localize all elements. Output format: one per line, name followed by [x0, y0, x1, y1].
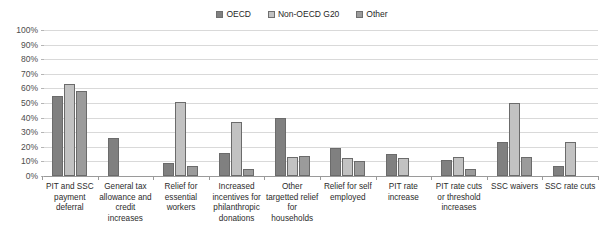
bar[interactable]	[287, 157, 298, 176]
x-axis-category-tick	[264, 176, 265, 180]
bar[interactable]	[465, 169, 476, 176]
x-axis-category-label: PIT rate cuts or threshold increases	[431, 182, 487, 224]
y-axis-tick-mark	[41, 30, 44, 31]
legend-swatch-icon	[356, 11, 363, 18]
y-axis-tick-mark	[41, 74, 44, 75]
x-axis-category-label: Other targetted relief for households	[264, 182, 320, 224]
legend-swatch-icon	[268, 11, 275, 18]
y-axis-tick-label: 20%	[0, 143, 38, 152]
legend-label: Non-OECD G20	[278, 10, 339, 19]
y-axis-tick-label: 80%	[0, 55, 38, 64]
y-axis-tick-mark	[41, 147, 44, 148]
bar-group	[264, 30, 320, 176]
x-axis-category-label: General tax allowance and credit increas…	[98, 182, 154, 224]
y-axis-tick-label: 40%	[0, 113, 38, 122]
legend-item-non-oecd-g20[interactable]: Non-OECD G20	[268, 10, 339, 19]
x-axis-category-tick	[209, 176, 210, 180]
bar[interactable]	[342, 158, 353, 176]
bar-group	[376, 30, 432, 176]
y-axis: 100%90%80%70%60%50%40%30%20%10%0%	[0, 30, 38, 176]
legend-swatch-icon	[216, 11, 223, 18]
bar[interactable]	[497, 142, 508, 176]
bar-group	[98, 30, 154, 176]
bar[interactable]	[231, 122, 242, 176]
bar-group	[209, 30, 265, 176]
y-axis-tick-label: 10%	[0, 157, 38, 166]
legend-item-oecd[interactable]: OECD	[216, 10, 251, 19]
x-axis-category-label: Relief for self employed	[320, 182, 376, 224]
bar[interactable]	[330, 148, 341, 176]
y-axis-tick-label: 90%	[0, 40, 38, 49]
y-axis-tick-label: 0%	[0, 172, 38, 181]
x-axis-category-label: Increased incentives for philanthropic d…	[209, 182, 265, 224]
chart-legend: OECDNon-OECD G20Other	[0, 10, 604, 19]
y-axis-tick-mark	[41, 161, 44, 162]
x-axis-category-tick	[376, 176, 377, 180]
y-axis-tick-mark	[41, 118, 44, 119]
legend-label: Other	[366, 10, 387, 19]
y-axis-tick-label: 50%	[0, 99, 38, 108]
bar[interactable]	[108, 138, 119, 176]
bar[interactable]	[441, 160, 452, 176]
bar[interactable]	[386, 154, 397, 176]
y-axis-tick-mark	[41, 88, 44, 89]
y-axis-tick-label: 30%	[0, 128, 38, 137]
legend-label: OECD	[226, 10, 251, 19]
x-axis-category-label: SSC waivers	[487, 182, 543, 224]
bar[interactable]	[52, 96, 63, 176]
x-axis-category-label: PIT and SSC payment deferral	[42, 182, 98, 224]
bar[interactable]	[299, 156, 310, 176]
y-axis-tick-mark	[41, 59, 44, 60]
x-axis-category-tick	[542, 176, 543, 180]
y-axis-tick-mark	[41, 103, 44, 104]
bar[interactable]	[76, 91, 87, 176]
bar[interactable]	[521, 157, 532, 176]
bar[interactable]	[64, 84, 75, 176]
bar[interactable]	[565, 142, 576, 176]
x-axis-category-tick	[153, 176, 154, 180]
bar-group	[487, 30, 543, 176]
x-axis-category-tick	[487, 176, 488, 180]
y-axis-tick-label: 60%	[0, 84, 38, 93]
bar[interactable]	[553, 166, 564, 176]
y-axis-tick-mark	[41, 45, 44, 46]
bar[interactable]	[175, 102, 186, 176]
x-axis-category-tick	[598, 176, 599, 180]
y-axis-tick-label: 70%	[0, 70, 38, 79]
bar-group	[542, 30, 598, 176]
bar-group	[431, 30, 487, 176]
bar[interactable]	[509, 103, 520, 176]
bar[interactable]	[275, 118, 286, 176]
bar[interactable]	[219, 153, 230, 176]
y-axis-tick-mark	[41, 132, 44, 133]
x-axis-category-tick	[98, 176, 99, 180]
y-axis-tick-label: 100%	[0, 26, 38, 35]
x-axis-category-label: SSC rate cuts	[542, 182, 598, 224]
bar-group	[42, 30, 98, 176]
bar[interactable]	[163, 163, 174, 176]
bar-group	[320, 30, 376, 176]
bar[interactable]	[243, 169, 254, 176]
x-axis-category-tick	[320, 176, 321, 180]
bars-layer	[42, 30, 598, 176]
bar-group	[153, 30, 209, 176]
x-axis-category-label: Relief for essential workers	[153, 182, 209, 224]
x-axis-labels: PIT and SSC payment deferralGeneral tax …	[42, 182, 598, 224]
bar[interactable]	[354, 161, 365, 176]
bar-chart: OECDNon-OECD G20Other 100%90%80%70%60%50…	[0, 0, 604, 238]
x-axis-category-tick	[42, 176, 43, 180]
bar[interactable]	[453, 157, 464, 176]
legend-item-other[interactable]: Other	[356, 10, 387, 19]
bar[interactable]	[398, 158, 409, 176]
x-axis-category-label: PIT rate increase	[376, 182, 432, 224]
bar[interactable]	[187, 166, 198, 176]
x-axis-category-tick	[431, 176, 432, 180]
